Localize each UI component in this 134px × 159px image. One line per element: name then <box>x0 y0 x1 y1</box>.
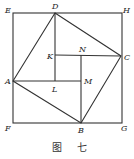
label-B: B <box>77 126 84 135</box>
label-H: H <box>122 6 131 15</box>
label-F: F <box>4 124 11 133</box>
inner-square-DCBA <box>13 13 121 123</box>
label-M: M <box>83 77 93 86</box>
label-G: G <box>121 124 128 133</box>
label-C: C <box>124 53 130 62</box>
label-L: L <box>51 85 57 94</box>
outer-square-EHGF <box>13 13 122 123</box>
label-A: A <box>4 77 11 86</box>
label-D: D <box>51 2 59 11</box>
label-N: N <box>78 45 87 54</box>
label-K: K <box>46 52 54 61</box>
geometry-diagram: E D H C K N M A L F B G 图 七 <box>0 0 134 159</box>
label-E: E <box>4 6 11 15</box>
figure-caption: 图 七 <box>52 142 93 153</box>
segment-CK <box>55 55 121 56</box>
